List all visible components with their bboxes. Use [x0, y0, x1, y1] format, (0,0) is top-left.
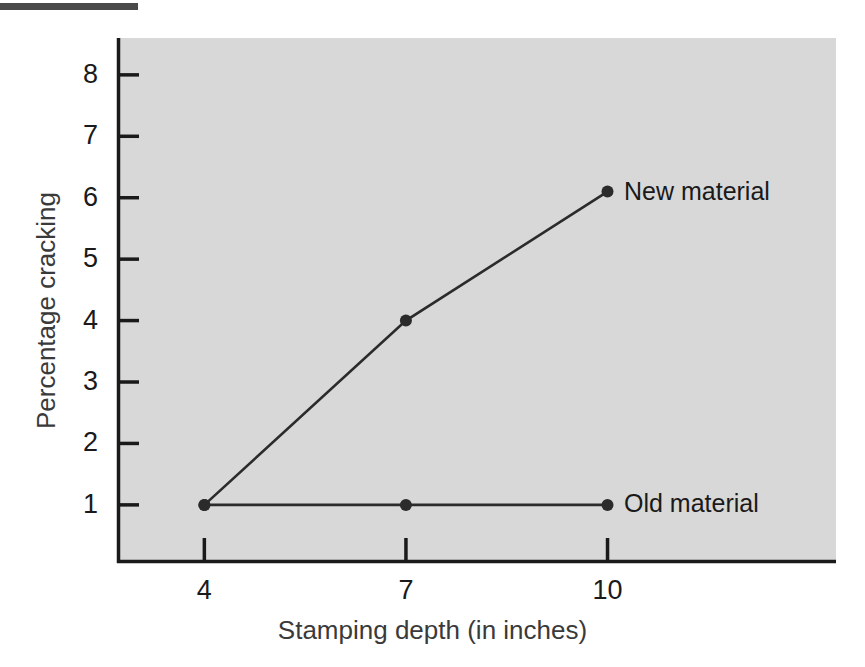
- y-tick-label: 7: [0, 122, 98, 149]
- chart-canvas: [0, 0, 865, 667]
- data-point-marker: [602, 499, 614, 511]
- data-point-marker: [198, 499, 210, 511]
- y-axis-title: Percentage cracking: [31, 171, 62, 451]
- x-tick-label: 4: [174, 577, 234, 604]
- x-tick-label: 10: [578, 577, 638, 604]
- data-point-marker: [400, 499, 412, 511]
- x-tick-label: 7: [376, 577, 436, 604]
- y-tick-label: 1: [0, 491, 98, 518]
- chart-figure: 12345678 4710 Stamping depth (in inches)…: [0, 0, 865, 667]
- x-axis-title: Stamping depth (in inches): [0, 615, 865, 646]
- series-label-new-material: New material: [624, 179, 770, 204]
- y-tick-label: 8: [0, 61, 98, 88]
- figure-root: 12345678 4710 Stamping depth (in inches)…: [0, 0, 865, 667]
- data-point-marker: [602, 186, 614, 198]
- series-label-old-material: Old material: [624, 491, 759, 516]
- plot-area-background: [117, 38, 836, 562]
- data-point-marker: [400, 315, 412, 327]
